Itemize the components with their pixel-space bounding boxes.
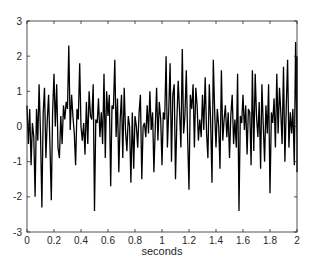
y-tick-label: 2 xyxy=(16,51,22,62)
y-tick-label: -3 xyxy=(13,227,22,238)
x-axis-label: seconds xyxy=(142,245,183,257)
x-tick-label: 0.6 xyxy=(101,235,115,246)
y-tick-label: 1 xyxy=(16,86,22,97)
x-tick-label: 1.2 xyxy=(182,235,196,246)
x-tick-label: 0.4 xyxy=(74,235,88,246)
x-tick-label: 2 xyxy=(294,235,300,246)
y-tick-label: -2 xyxy=(13,191,22,202)
axes-background xyxy=(27,21,297,232)
y-tick-label: -1 xyxy=(13,156,22,167)
x-tick-label: 0.8 xyxy=(128,235,142,246)
x-tick-label: 1.6 xyxy=(236,235,250,246)
line-chart: 00.20.40.60.811.21.41.61.82 -3-2-10123 s… xyxy=(0,0,315,271)
x-tick-label: 1.8 xyxy=(263,235,277,246)
y-tick-label: 0 xyxy=(16,121,22,132)
x-tick-label: 1.4 xyxy=(209,235,223,246)
x-tick-label: 0 xyxy=(24,235,30,246)
plot-area xyxy=(27,21,297,232)
y-tick-label: 3 xyxy=(16,16,22,27)
x-tick-label: 0.2 xyxy=(47,235,61,246)
